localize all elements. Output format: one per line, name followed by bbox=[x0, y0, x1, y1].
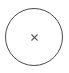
close-button[interactable] bbox=[5, 8, 63, 66]
close-icon bbox=[31, 34, 38, 41]
